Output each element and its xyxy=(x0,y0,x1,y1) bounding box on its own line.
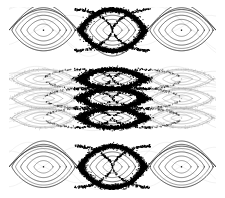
poincare-section-plot xyxy=(0,0,225,198)
phase-portrait-figure: Poincare section phase portrait xyxy=(0,0,225,198)
